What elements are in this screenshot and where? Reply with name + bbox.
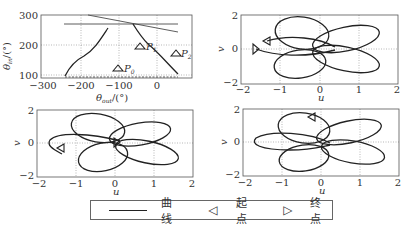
legend: 曲线 ◁ 起点 ▷ 终点 [90,200,333,220]
x-tick-1: 1 [356,84,362,95]
y-tick-2: 2 [232,10,238,21]
x-tick-minus300: −300 [29,80,56,91]
start-marker [57,144,64,152]
point-p1-label: P1 [145,41,157,53]
x-tick-minus1: −1 [273,84,288,95]
triangle-left-icon: ◁ [208,203,217,217]
y-axis-label: v [11,140,22,146]
y-axis-label: v [218,139,229,145]
x-tick-2: 2 [394,84,400,95]
point-p1-marker [135,43,145,49]
x-axis-label: u [318,92,324,103]
legend-label-curve: 曲线 [161,194,183,225]
legend-label-start: 起点 [236,194,258,225]
x-tick-2: 2 [189,178,195,189]
y-axis-label: v [215,46,226,52]
x-tick-minus1: −1 [69,178,84,189]
x-axis-label: θout/(°) [96,92,128,104]
panel-uv-bottom-right: 2 0 −2 −2 −1 0 1 2 u v [218,104,401,196]
y-tick-0: 0 [232,43,238,54]
point-p2-marker [171,50,181,56]
rose-curve [254,110,386,175]
rose-curve [256,13,382,81]
y-tick-300: 300 [19,10,38,21]
y-axis-label: θin/(°) [1,42,13,70]
x-tick-0: 0 [154,80,160,91]
line-swatch-icon [109,210,147,211]
panel-uv-bottom-left: 2 0 −2 −2 −1 0 1 2 u v [11,105,195,197]
panel-uv-top-right: 2 0 −2 −2 −1 0 1 2 u v [215,10,400,103]
x-tick-minus2: −2 [238,177,253,188]
x-tick-2: 2 [395,177,401,188]
point-p0-marker [113,65,123,71]
x-tick-minus100: −100 [105,80,132,91]
x-tick-1: 1 [357,177,363,188]
curve-left-branch [65,28,108,76]
y-tick-0: 0 [28,137,34,148]
triangle-right-icon: ▷ [283,203,292,217]
legend-item-end: ▷ 终点 [257,194,332,225]
y-tick-2: 2 [28,105,34,116]
point-p0-label: P0 [123,63,135,75]
x-tick-minus2: −2 [32,178,47,189]
y-tick-2: 2 [234,104,240,115]
y-tick-200: 200 [19,40,38,51]
legend-label-end: 终点 [310,194,332,225]
y-tick-0: 0 [234,136,240,147]
x-tick-minus200: −200 [67,80,94,91]
plot-frame [41,15,192,78]
x-tick-minus1: −1 [275,177,290,188]
legend-item-start: ◁ 起点 [182,194,257,225]
x-tick-minus2: −2 [236,84,251,95]
legend-item-curve: 曲线 [91,194,182,225]
x-tick-1: 1 [151,178,157,189]
panel-theta-plot: P1 P2 P0 300 200 100 −300 −200 −100 0 θo… [1,10,192,104]
diagonal-line [88,15,178,32]
plot-frame [241,15,398,84]
point-p2-label: P2 [180,48,192,60]
figure-canvas: P1 P2 P0 300 200 100 −300 −200 −100 0 θo… [0,0,406,225]
